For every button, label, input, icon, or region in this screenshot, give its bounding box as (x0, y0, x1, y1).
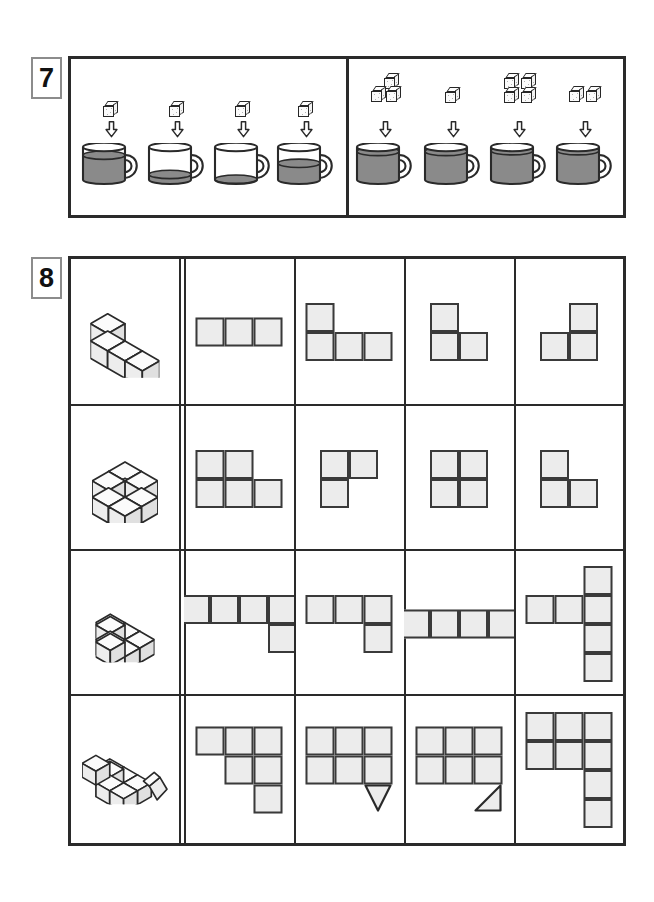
shape-cell (320, 479, 349, 508)
shape-cell (488, 609, 514, 638)
option-shape-r4-c3[interactable] (404, 696, 514, 843)
exercise-7-frame (68, 56, 626, 218)
shape-cell (225, 479, 254, 508)
down-arrow-icon (379, 121, 392, 138)
shape-cell (306, 755, 335, 784)
sugar-cube (521, 87, 538, 104)
flat-shape (320, 450, 378, 508)
shape-cell (239, 595, 268, 624)
option-shape-r1-c2[interactable] (294, 259, 404, 404)
mug-unit (81, 59, 149, 215)
shape-cell (569, 332, 598, 361)
worksheet-page: 7 8 (0, 0, 654, 902)
option-shape-r1-c4[interactable] (514, 259, 623, 404)
mug-unit (276, 59, 344, 215)
shape-cell (196, 479, 225, 508)
shape-cell (569, 479, 598, 508)
shape-cell (540, 332, 569, 361)
shape-cell (583, 624, 612, 653)
option-shape-r4-c4[interactable] (514, 696, 623, 843)
option-shape-r3-c3[interactable] (404, 551, 514, 696)
mug-7 (489, 143, 551, 190)
flat-shape (525, 712, 612, 828)
shape-cell (459, 609, 488, 638)
mug-unit (355, 59, 423, 215)
shape-cell (210, 595, 239, 624)
shape-cell (459, 450, 488, 479)
shape-cell (525, 712, 554, 741)
shape-cell (416, 755, 445, 784)
option-shape-r3-c4[interactable] (514, 551, 623, 696)
shape-cell (474, 726, 503, 755)
shape-cell (525, 595, 554, 624)
flat-shape (404, 609, 514, 638)
option-shape-r3-c2[interactable] (294, 551, 404, 696)
mug-3 (213, 143, 275, 190)
mug-unit (489, 59, 557, 215)
flat-shape (525, 566, 612, 682)
shape-cell (459, 332, 488, 361)
mug-2 (147, 143, 209, 190)
flat-shape (196, 450, 283, 508)
shape-cell (254, 317, 283, 346)
flat-shape (540, 303, 598, 361)
shape-cell (306, 303, 335, 332)
sugar-cube (569, 86, 586, 103)
down-arrow-icon (300, 121, 313, 138)
shape-cell (583, 653, 612, 682)
sugar-cube (386, 86, 403, 103)
down-arrow-icon (579, 121, 592, 138)
shape-cell (554, 741, 583, 770)
shape-cell (335, 755, 364, 784)
option-shape-r3-c1[interactable] (184, 551, 294, 696)
down-arrow-icon (513, 121, 526, 138)
exercise-7-number: 7 (39, 65, 54, 92)
sugar-cube (504, 87, 521, 104)
sugar-cube (445, 87, 462, 104)
exercise-8-frame (68, 256, 626, 846)
shape-cell (540, 450, 569, 479)
mug-4 (276, 143, 338, 190)
shape-cell (268, 624, 294, 653)
figure-3d-row-3 (71, 551, 179, 696)
triangle-down (364, 783, 393, 812)
mug-1 (81, 143, 143, 190)
shape-cell (416, 726, 445, 755)
option-shape-r2-c3[interactable] (404, 406, 514, 551)
flat-shape (306, 595, 393, 653)
option-shape-r1-c1[interactable] (184, 259, 294, 404)
option-shape-r2-c1[interactable] (184, 406, 294, 551)
shape-cell (459, 479, 488, 508)
shape-cell (364, 332, 393, 361)
shape-cell (583, 741, 612, 770)
figure-3d-row-1 (71, 259, 179, 404)
exercise-7-number-badge: 7 (31, 57, 62, 99)
iso-stack (90, 293, 159, 377)
shape-cell (196, 450, 225, 479)
mug-6 (423, 143, 485, 190)
shape-cell (306, 726, 335, 755)
option-shape-r1-c3[interactable] (404, 259, 514, 404)
option-shape-r4-c1[interactable] (184, 696, 294, 843)
shape-cell (335, 595, 364, 624)
shape-cell (349, 450, 378, 479)
sugar-cube (235, 101, 252, 118)
option-shape-r4-c2[interactable] (294, 696, 404, 843)
shape-cell (474, 755, 503, 784)
grid-column-separator-1a (179, 259, 181, 843)
shape-cell (335, 726, 364, 755)
figure-3d-row-2 (71, 406, 179, 551)
shape-cell (225, 726, 254, 755)
shape-cell (430, 450, 459, 479)
iso-stack (82, 739, 168, 804)
shape-cell (196, 726, 225, 755)
shape-cell (306, 595, 335, 624)
option-shape-r2-c2[interactable] (294, 406, 404, 551)
flat-shape (416, 726, 503, 813)
down-arrow-icon (171, 121, 184, 138)
mug-5 (355, 143, 417, 190)
shape-cell (268, 595, 294, 624)
option-shape-r2-c4[interactable] (514, 406, 623, 551)
iso-stack (96, 597, 155, 663)
flat-shape (196, 726, 283, 813)
